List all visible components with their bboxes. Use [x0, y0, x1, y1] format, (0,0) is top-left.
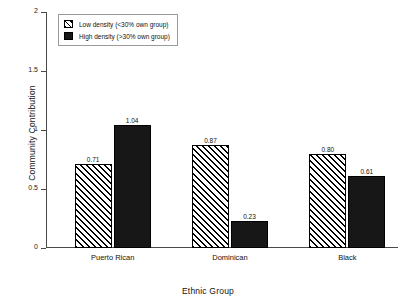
bar-low-density-black: 0.80 [309, 154, 346, 248]
y-axis-tick: 0.5 [41, 189, 46, 190]
bar-high-density-dominican: 0.23 [231, 221, 268, 248]
x-axis-label-dominican: Dominican [212, 253, 247, 262]
bar-value-label: 1.04 [126, 117, 139, 124]
y-axis-tick: 2 [41, 12, 46, 13]
y-axis-tick-label: 1.5 [28, 66, 38, 73]
bar-value-label: 0.87 [204, 137, 217, 144]
y-axis-tick-label: 2 [34, 7, 38, 14]
bar-value-label: 0.71 [87, 156, 100, 163]
y-axis-tick: 1.5 [41, 71, 46, 72]
legend-label-low-density: Low density (<30% own group) [79, 21, 168, 28]
y-axis-tick: 0 [41, 248, 46, 249]
legend-swatch-low-density-icon [64, 20, 73, 28]
bar-value-label: 0.80 [322, 146, 335, 153]
y-axis-line [46, 12, 47, 248]
bar-value-label: 0.23 [243, 213, 256, 220]
y-axis-tick-label: 1 [34, 125, 38, 132]
y-axis-tick-label: 0.5 [28, 184, 38, 191]
legend-swatch-high-density-icon [64, 32, 73, 40]
bar-low-density-puerto-rican: 0.71 [75, 164, 112, 248]
chart-legend: Low density (<30% own group) High densit… [58, 14, 178, 46]
x-axis-label-black: Black [338, 253, 356, 262]
y-axis-tick: 1 [41, 130, 46, 131]
bar-value-label: 0.61 [361, 168, 374, 175]
x-axis-label-puerto-rican: Puerto Rican [91, 253, 134, 262]
legend-item-high-density: High density (>30% own group) [64, 31, 170, 41]
y-axis-tick-label: 0 [34, 243, 38, 250]
x-axis-title: Ethnic Group [0, 286, 416, 296]
bar-chart: Community Contribution Ethnic Group 00.5… [0, 0, 416, 308]
bar-high-density-black: 0.61 [348, 176, 385, 248]
legend-label-high-density: High density (>30% own group) [79, 33, 170, 40]
plot-area: 00.511.52 0.711.040.870.230.800.61 Puert… [46, 12, 398, 248]
legend-item-low-density: Low density (<30% own group) [64, 19, 170, 29]
bar-low-density-dominican: 0.87 [192, 145, 229, 248]
bar-high-density-puerto-rican: 1.04 [114, 125, 151, 248]
